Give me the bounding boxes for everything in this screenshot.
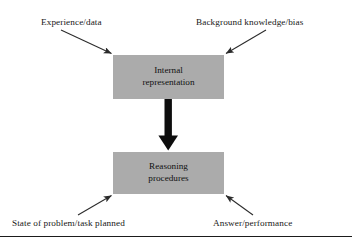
bottom-divider-rule <box>0 236 352 237</box>
node-reasoning-procedures-line-2: procedures <box>148 173 188 185</box>
label-background-knowledge-bias: Background knowledge/bias <box>196 17 303 28</box>
node-reasoning-procedures-line-1: Reasoning <box>149 161 188 173</box>
arrow-internal-to-reasoning-thick <box>158 99 178 151</box>
label-state-of-problem-task-planned: State of problem/task planned <box>12 218 125 229</box>
arrow-background-to-internal <box>226 30 266 54</box>
node-internal-representation-line-1: Internal <box>154 65 183 77</box>
arrow-answer-to-reasoning <box>226 196 253 216</box>
arrow-state-to-reasoning <box>78 196 112 216</box>
diagram-canvas: Internal representation Reasoning proced… <box>0 0 352 252</box>
label-answer-performance: Answer/performance <box>213 218 292 229</box>
node-internal-representation: Internal representation <box>113 55 224 99</box>
arrow-experience-to-internal <box>61 30 112 54</box>
label-experience-data: Experience/data <box>41 17 102 28</box>
diagram-connectors <box>0 0 352 252</box>
node-reasoning-procedures: Reasoning procedures <box>113 152 224 194</box>
node-internal-representation-line-2: representation <box>142 77 194 89</box>
